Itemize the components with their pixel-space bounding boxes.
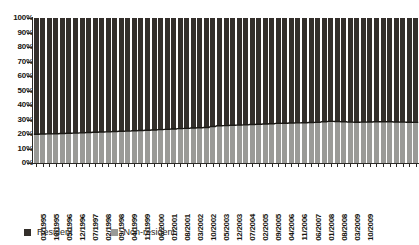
bar-segment-non-resident [171, 129, 176, 163]
x-axis-tick-mark [259, 163, 260, 167]
bar-segment-non-resident [224, 126, 229, 163]
bar-segment-non-resident [374, 122, 379, 163]
x-axis-tick-mark [298, 163, 299, 167]
table-row [387, 18, 392, 163]
bar-segment-resident [132, 18, 137, 131]
table-row [34, 18, 39, 163]
bar-segment-non-resident [119, 131, 124, 163]
x-axis-tick-mark [396, 163, 397, 167]
bar-segment-resident [47, 18, 52, 134]
bar-segment-non-resident [400, 122, 405, 163]
table-row [367, 18, 372, 163]
x-axis-tick-mark [187, 163, 188, 167]
plot-area [33, 18, 419, 163]
bar-segment-resident [80, 18, 85, 133]
bar-segment-resident [282, 18, 287, 123]
bar-segment-non-resident [210, 126, 215, 163]
bar-segment-resident [191, 18, 196, 128]
table-row [99, 18, 104, 163]
x-axis-tick-mark [357, 163, 358, 167]
table-row [374, 18, 379, 163]
bar-segment-non-resident [73, 133, 78, 163]
bar-segment-resident [197, 18, 202, 128]
bar-segment-non-resident [106, 132, 111, 163]
x-axis-tick-mark [167, 163, 168, 167]
bar-segment-non-resident [256, 124, 261, 163]
table-row [158, 18, 163, 163]
bar-segment-resident [269, 18, 274, 124]
bar-segment-non-resident [99, 132, 104, 163]
x-axis-tick-mark [213, 163, 214, 167]
bar-segment-resident [99, 18, 104, 132]
x-axis-tick-mark [239, 163, 240, 167]
bar-segment-non-resident [217, 126, 222, 163]
table-row [407, 18, 412, 163]
bar-segment-resident [256, 18, 261, 124]
bar-segment-resident [204, 18, 209, 127]
bar-segment-resident [93, 18, 98, 132]
bar-segment-non-resident [47, 134, 52, 163]
table-row [132, 18, 137, 163]
bar-segment-non-resident [204, 127, 209, 163]
x-axis-tick-mark [89, 163, 90, 167]
table-row [230, 18, 235, 163]
bar-segment-resident [322, 18, 327, 122]
bar-segment-non-resident [263, 124, 268, 163]
bar-segment-resident [374, 18, 379, 122]
x-axis-tick-mark [180, 163, 181, 167]
x-axis-tick-mark [265, 163, 266, 167]
bar-segment-non-resident [112, 132, 117, 163]
x-axis-tick-mark [193, 163, 194, 167]
table-row [86, 18, 91, 163]
bar-segment-resident [400, 18, 405, 122]
x-axis-tick-mark [305, 163, 306, 167]
stacked-bar-chart: 0%10%20%30%40%50%60%70%80%90%100% 03/199… [0, 0, 419, 245]
table-row [119, 18, 124, 163]
bar-segment-non-resident [282, 123, 287, 163]
table-row [171, 18, 176, 163]
table-row [341, 18, 346, 163]
bar-segment-non-resident [335, 122, 340, 163]
x-axis-tick-mark [43, 163, 44, 167]
bar-segment-non-resident [407, 122, 412, 163]
bar-segment-non-resident [269, 124, 274, 163]
table-row [309, 18, 314, 163]
bar-segment-non-resident [197, 128, 202, 163]
bar-segment-resident [230, 18, 235, 125]
table-row [165, 18, 170, 163]
x-axis-tick-mark [95, 163, 96, 167]
bar-segment-resident [348, 18, 353, 122]
x-axis-tick-mark [115, 163, 116, 167]
bar-segment-resident [138, 18, 143, 131]
bar-segment-resident [119, 18, 124, 131]
bar-segment-resident [367, 18, 372, 122]
x-axis-tick-mark [272, 163, 273, 167]
bar-segment-non-resident [387, 122, 392, 163]
x-axis-tick-mark [383, 163, 384, 167]
bar-segment-resident [289, 18, 294, 123]
bar-segment-non-resident [66, 133, 71, 163]
x-axis-tick-mark [376, 163, 377, 167]
x-axis-tick-mark [285, 163, 286, 167]
x-axis-tick-mark [174, 163, 175, 167]
x-axis-tick-mark [36, 163, 37, 167]
table-row [263, 18, 268, 163]
y-axis: 0%10%20%30%40%50%60%70%80%90%100% [0, 0, 33, 245]
bar-segment-resident [302, 18, 307, 123]
bar-segment-non-resident [361, 122, 366, 163]
bar-segment-resident [237, 18, 242, 125]
bar-segment-non-resident [315, 122, 320, 163]
x-axis-tick-mark [390, 163, 391, 167]
table-row [361, 18, 366, 163]
x-axis-tick-mark [403, 163, 404, 167]
bar-segment-resident [224, 18, 229, 126]
x-axis-tick-mark [147, 163, 148, 167]
x-axis-tick-mark [252, 163, 253, 167]
bar-segment-non-resident [309, 123, 314, 163]
bar-segment-non-resident [138, 131, 143, 163]
table-row [80, 18, 85, 163]
table-row [276, 18, 281, 163]
x-axis-tick-mark [363, 163, 364, 167]
bar-segment-non-resident [191, 128, 196, 163]
table-row [348, 18, 353, 163]
